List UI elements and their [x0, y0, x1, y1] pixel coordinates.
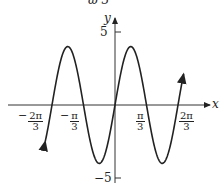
x-tick-pi-3: π3: [136, 109, 145, 132]
x-tick-neg-2pi-3: −2π3: [18, 109, 43, 132]
x-tick-neg-pi-3: −π3: [60, 109, 79, 132]
y-tick-5: 5: [100, 26, 108, 38]
y-axis-label: y: [104, 12, 111, 24]
y-tick-neg5: −5: [94, 172, 112, 184]
sine-plot: [0, 0, 223, 189]
x-tick-2pi-3: 2π3: [179, 109, 194, 132]
x-axis-label: x: [212, 98, 219, 110]
